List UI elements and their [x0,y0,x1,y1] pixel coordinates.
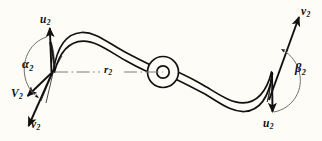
blade-outer-contour-right [165,74,273,112]
velocity-triangle-figure: u2 V2 v2 α2 r2 v2 β2 u2 [0,0,322,141]
alpha2-label-symbol: α [22,57,29,71]
u2-label-subscript: 2 [46,18,50,27]
r2-label: r2 [104,64,112,78]
v2-label-subscript: 2 [36,123,40,132]
beta2-angle-arc [274,50,300,113]
beta2-label-subscript: 2 [301,68,305,77]
u2-label-subscript-right: 2 [269,122,273,131]
u2-vector-right [272,72,273,112]
v2-vector-right [269,17,299,100]
V2-label-symbol: V [11,87,19,99]
alpha2-label-subscript: 2 [29,64,33,73]
alpha2-label: α2 [22,58,33,73]
blade-inner-contour-right [164,67,272,103]
v2-label-top-right: v2 [301,6,310,19]
u2-vector-left [50,28,52,72]
v2-label-subscript-right: 2 [306,10,310,19]
u2-label-bottom-right: u2 [263,118,274,131]
v2-label-bottom-left: v2 [31,119,40,132]
beta2-label: β2 [295,62,306,77]
r2-label-subscript: 2 [108,69,112,77]
V2-label-subscript: 2 [19,92,23,101]
V2-label-left: V2 [11,88,23,101]
u2-label-top-left: u2 [40,14,51,27]
